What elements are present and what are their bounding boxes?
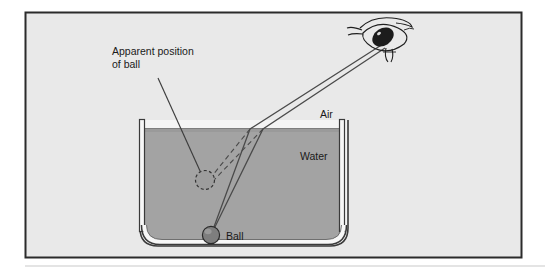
ball-label: Ball — [226, 230, 244, 242]
tank-wall-left — [140, 120, 145, 232]
apparent-position-label-line2: of ball — [112, 58, 140, 70]
ball-object — [202, 226, 219, 243]
diagram-canvas: Apparent position of ball Air Water Ball — [0, 0, 545, 271]
ball-sphere — [202, 226, 219, 243]
tank-wall-right — [340, 120, 345, 232]
ball-highlight — [204, 229, 211, 235]
refraction-diagram: Apparent position of ball Air Water Ball — [0, 0, 545, 271]
apparent-ball — [196, 171, 215, 190]
water-label: Water — [300, 150, 328, 162]
water-tank — [140, 120, 349, 249]
apparent-position-label-line1: Apparent position — [112, 45, 194, 57]
air-label: Air — [320, 108, 333, 120]
